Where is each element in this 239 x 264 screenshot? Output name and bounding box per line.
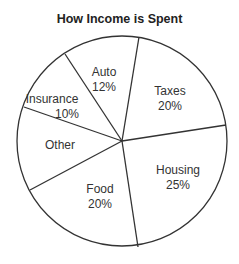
label-pct: 10% (55, 107, 79, 122)
slice-label-housing: Housing 25% (156, 163, 200, 193)
label-name: Insurance (25, 92, 79, 107)
label-pct: 20% (86, 197, 113, 212)
slice-label-taxes: Taxes 20% (154, 84, 185, 114)
label-pct: 25% (156, 178, 200, 193)
slice-label-auto: Auto 12% (92, 65, 117, 95)
label-name: Taxes (154, 84, 185, 99)
label-name: Food (86, 182, 113, 197)
slice-label-other: Other (45, 138, 75, 153)
label-name: Other (45, 138, 75, 153)
label-name: Housing (156, 163, 200, 178)
label-pct: 20% (154, 99, 185, 114)
label-name: Auto (92, 65, 117, 80)
label-pct: 12% (92, 80, 117, 95)
pie-chart (0, 0, 239, 264)
slice-label-insurance: Insurance 10% (45, 92, 79, 122)
slice-label-food: Food 20% (86, 182, 113, 212)
